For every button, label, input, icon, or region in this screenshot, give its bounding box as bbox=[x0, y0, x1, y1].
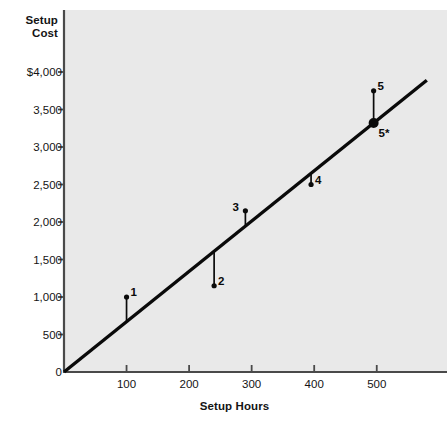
y-tick-label: 1,500 bbox=[33, 254, 62, 266]
y-tick-label: 2,500 bbox=[33, 179, 62, 191]
data-point-5 bbox=[371, 88, 376, 93]
y-tick-label: 500 bbox=[43, 329, 62, 341]
data-point-1 bbox=[124, 294, 129, 299]
data-point-label-3: 3 bbox=[232, 201, 238, 213]
data-point-label-4: 4 bbox=[315, 174, 321, 186]
x-tick-label: 100 bbox=[117, 378, 136, 390]
data-point-label-2: 2 bbox=[218, 275, 224, 287]
y-axis-title: Setup Cost bbox=[0, 14, 58, 40]
y-tick-label: 3,500 bbox=[33, 104, 62, 116]
data-point-label-5: 5 bbox=[378, 80, 384, 92]
y-tick-label: $4,000 bbox=[27, 66, 62, 78]
data-point-5star bbox=[369, 118, 379, 128]
y-tick-label: 3,000 bbox=[33, 141, 62, 153]
x-tick-label: 400 bbox=[305, 378, 324, 390]
y-tick-label: 0 bbox=[56, 366, 62, 378]
y-tick-label: 2,000 bbox=[33, 216, 62, 228]
x-tick-label: 300 bbox=[242, 378, 261, 390]
chart-root: Setup Cost Setup Hours 05001,0001,5002,0… bbox=[0, 0, 447, 427]
data-point-label-1: 1 bbox=[131, 286, 137, 298]
x-axis-title: Setup Hours bbox=[0, 400, 447, 413]
y-tick-label: 1,000 bbox=[33, 291, 62, 303]
data-point-label-5star: 5* bbox=[379, 127, 390, 139]
chart-canvas bbox=[0, 0, 447, 427]
x-tick-label: 200 bbox=[180, 378, 199, 390]
data-point-4 bbox=[308, 182, 313, 187]
data-point-2 bbox=[212, 283, 217, 288]
x-tick-label: 500 bbox=[367, 378, 386, 390]
data-point-3 bbox=[243, 208, 248, 213]
